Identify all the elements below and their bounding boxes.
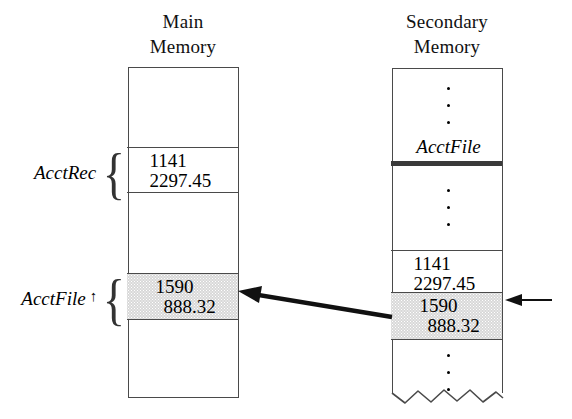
- secondary-memory-cell-1141: 1141 2297.45: [391, 250, 502, 293]
- main-acctrec-line-1: 1141: [149, 150, 186, 171]
- main-acctrec-line-2: 2297.45: [149, 170, 211, 191]
- secondary-bottom-ellipsis-dots: [441, 354, 455, 391]
- secondary-acctfile-label: AcctFile: [393, 136, 504, 157]
- secondary-memory-box: AcctFile 1141 2297.45 1590 888.32: [392, 68, 503, 393]
- main-memory-heading: Main Memory: [118, 9, 248, 59]
- acctfile-label-text: AcctFile: [21, 288, 89, 309]
- main-acctfile-line-1: 1590: [155, 276, 193, 297]
- acctrec-label-text: AcctRec: [34, 162, 100, 183]
- secondary-memory-heading: Secondary Memory: [382, 9, 512, 59]
- file-boundary-bar: [391, 161, 502, 166]
- pointer-dereference-arrow-icon: ↑: [90, 288, 101, 305]
- secondary-middle-ellipsis-dots: [441, 189, 455, 226]
- secondary-1141-line-1: 1141: [413, 253, 450, 274]
- secondary-memory-cell-1590: 1590 888.32: [391, 292, 502, 340]
- secondary-top-ellipsis-dots: [441, 87, 455, 124]
- main-memory-box: 1141 2297.45 1590 888.32: [128, 67, 239, 398]
- acctrec-label-group: AcctRec {: [18, 152, 128, 192]
- acctfile-pointer-label-group: AcctFile ↑ {: [8, 278, 128, 318]
- main-acctfile-line-2: 888.32: [163, 296, 215, 317]
- record-transfer-arrow: [238, 286, 392, 317]
- file-position-arrow: [505, 294, 552, 306]
- memory-diagram-canvas: Main Memory Secondary Memory 1141 2297.4…: [0, 0, 572, 419]
- main-memory-cell-acctfile-target: 1590 888.32: [127, 273, 238, 320]
- secondary-1590-line-1: 1590: [419, 295, 457, 316]
- main-memory-cell-acctrec: 1141 2297.45: [127, 147, 238, 193]
- secondary-1141-line-2: 2297.45: [413, 273, 475, 294]
- secondary-1590-line-2: 888.32: [427, 315, 479, 336]
